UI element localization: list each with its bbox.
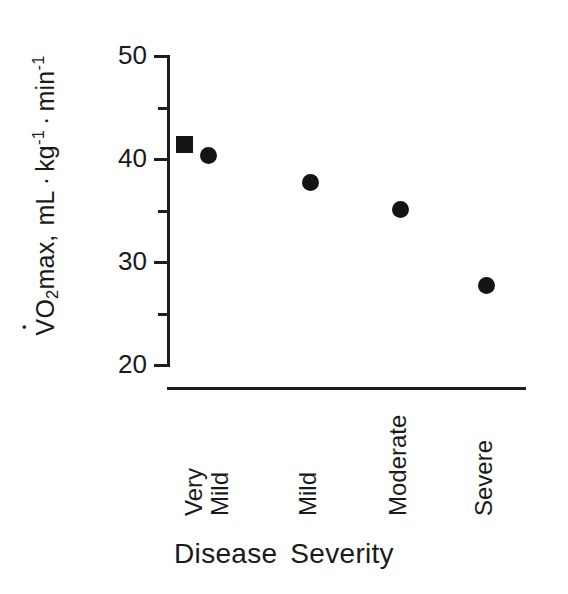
y-axis-minor-tick — [158, 107, 168, 110]
x-axis-category-label-mild: Mild — [208, 472, 232, 516]
y-axis-tick-label: 40 — [95, 145, 147, 171]
y-axis-major-tick — [154, 261, 168, 264]
data-point-circle-severe — [478, 277, 495, 294]
x-axis-category-label-mild: Mild — [296, 472, 320, 516]
data-point-circle-moderate — [392, 201, 409, 218]
x-axis-title-word-2: Severity — [290, 538, 394, 569]
figure-scatter-vo2max-disease-severity: VO2max,mL·kg-1·min-1 20304050VeryMildMil… — [0, 0, 568, 594]
data-point-circle-very-mild — [200, 147, 217, 164]
y-axis-major-tick — [154, 55, 168, 58]
y-axis-minor-tick — [158, 210, 168, 213]
data-point-circle-mild — [302, 174, 319, 191]
x-axis-category-label-severe: Severe — [472, 440, 496, 516]
y-axis-major-tick — [154, 158, 168, 161]
x-axis-title-word-1: Disease — [174, 538, 277, 569]
x-axis-category-label-moderate: Moderate — [386, 415, 410, 516]
y-axis-tick-label: 50 — [95, 42, 147, 68]
data-point-square-very-mild — [176, 136, 193, 153]
x-axis-category-label-very: Very — [182, 468, 206, 516]
y-axis-minor-tick — [158, 313, 168, 316]
x-axis-title: DiseaseSeverity — [0, 538, 568, 570]
y-axis-tick-label: 30 — [95, 248, 147, 274]
plot-area: 20304050VeryMildMildModerateSevere — [0, 0, 568, 594]
x-axis-spine — [167, 387, 526, 390]
y-axis-major-tick — [154, 364, 168, 367]
y-axis-tick-label: 20 — [95, 351, 147, 377]
